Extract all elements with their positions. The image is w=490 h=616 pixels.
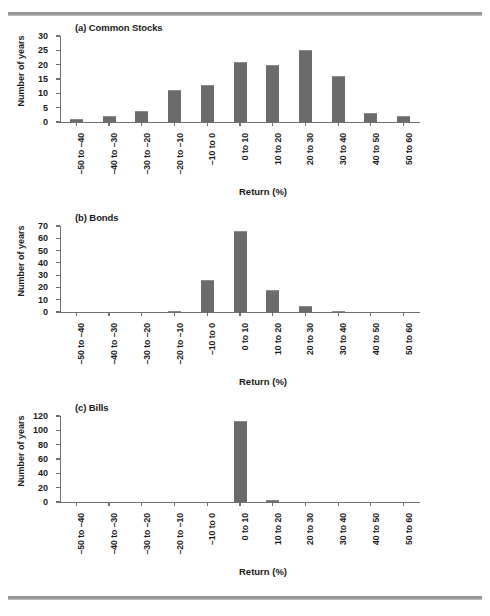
x-category-label: –20 to –10 [173,133,187,191]
panel-c-plot-area: 020406080100120 [60,416,420,502]
panel-bills: (c) Bills Number of years 02040608010012… [0,402,490,582]
x-category-label: 0 to 10 [238,133,252,191]
panel-b-y-tick [56,275,60,276]
panel-c-x-category-labels: –50 to –40–40 to –30–30 to –20–20 to –10… [60,506,420,564]
bottom-divider-rule [8,596,482,600]
panel-c-y-tick-label: 80 [38,440,48,449]
panel-a-y-tick [56,121,60,122]
panel-b-y-tick-label: 40 [38,258,48,267]
panel-a-y-tick [56,78,60,79]
panel-a-x-axis-title: Return (%) [0,186,490,197]
bar [266,290,279,312]
panel-b-y-tick-label: 0 [43,308,48,317]
panel-a-y-axis-line [60,36,61,122]
panel-c-y-tick [56,430,60,431]
bar [299,306,312,312]
x-category-label: 40 to 50 [369,133,383,191]
panel-c-y-tick-label: 120 [33,412,48,421]
panel-a-y-tick-label: 15 [38,75,48,84]
bar [234,231,247,312]
panel-b-title: (b) Bonds [75,212,118,223]
panel-b-y-tick-label: 20 [38,283,48,292]
panel-c-y-axis-line [60,416,61,502]
x-category-label: –30 to –20 [140,323,154,381]
x-category-label: –50 to –40 [74,323,88,381]
panel-b-y-tick-label: 10 [38,295,48,304]
bar [201,280,214,312]
x-category-label: 20 to 30 [303,323,317,381]
panel-b-y-tick [56,311,60,312]
bar [135,111,148,122]
bar [234,421,247,502]
x-category-label: 20 to 30 [303,513,317,571]
panel-b-y-tick-label: 70 [38,222,48,231]
x-category-label: –20 to –10 [173,513,187,571]
panel-a-title: (a) Common Stocks [75,22,163,33]
panel-b-y-tick-label: 60 [38,234,48,243]
panel-c-y-axis-label: Number of years [16,406,26,496]
panel-a-y-tick-label: 20 [38,60,48,69]
panel-a-y-tick [56,50,60,51]
x-category-label: 10 to 20 [271,133,285,191]
panel-a-x-category-labels: –50 to –40–40 to –30–30 to –20–20 to –10… [60,126,420,184]
x-category-label: 50 to 60 [402,133,416,191]
panel-b-y-tick [56,225,60,226]
x-category-label: –30 to –20 [140,513,154,571]
panel-a-y-tick-label: 10 [38,89,48,98]
panel-c-y-tick-label: 100 [33,426,48,435]
bar [397,116,410,122]
bar [168,90,181,122]
bar [332,76,345,122]
x-category-label: 50 to 60 [402,513,416,571]
panel-b-y-tick-label: 30 [38,271,48,280]
panel-a-plot-area: 051015202530 [60,36,420,122]
x-category-label: 30 to 40 [336,323,350,381]
bar [70,119,83,122]
panel-c-title: (c) Bills [75,402,108,413]
panel-c-y-tick [56,444,60,445]
bar [364,113,377,122]
x-category-label: 30 to 40 [336,133,350,191]
panel-b-y-axis-label: Number of years [16,216,26,306]
panel-b-y-tick [56,262,60,263]
panel-a-y-tick [56,64,60,65]
bar [266,65,279,122]
bar [266,500,279,502]
panel-c-y-tick [56,415,60,416]
panel-a-y-axis-label: Number of years [16,26,26,116]
x-category-label: 20 to 30 [303,133,317,191]
panel-b-plot-area: 010203040506070 [60,226,420,312]
x-category-label: 50 to 60 [402,323,416,381]
panel-b-y-tick [56,250,60,251]
x-category-label: –10 to 0 [205,133,219,191]
x-category-label: –40 to –30 [107,513,121,571]
panel-a-y-tick-label: 0 [43,118,48,127]
panel-b-y-tick [56,299,60,300]
x-category-label: 0 to 10 [238,513,252,571]
x-category-label: –40 to –30 [107,323,121,381]
panel-c-y-tick-label: 40 [38,469,48,478]
top-divider-rule [8,12,482,16]
panel-bonds: (b) Bonds Number of years 01020304050607… [0,212,490,392]
panel-a-y-tick-label: 30 [38,32,48,41]
bar [299,50,312,122]
panel-c-y-tick [56,458,60,459]
panel-a-y-tick [56,93,60,94]
x-category-label: –50 to –40 [74,513,88,571]
x-category-label: –40 to –30 [107,133,121,191]
panel-c-x-axis-title: Return (%) [0,566,490,577]
panel-a-y-tick [56,35,60,36]
x-category-label: 0 to 10 [238,323,252,381]
panel-a-y-tick [56,107,60,108]
panel-c-y-tick [56,501,60,502]
x-category-label: 10 to 20 [271,513,285,571]
panel-b-y-tick-label: 50 [38,246,48,255]
panel-a-y-tick-label: 25 [38,46,48,55]
panel-c-y-tick-label: 0 [43,498,48,507]
x-category-label: 10 to 20 [271,323,285,381]
panel-b-y-tick [56,238,60,239]
bar [234,62,247,122]
x-category-label: –10 to 0 [205,323,219,381]
panel-b-x-axis-title: Return (%) [0,376,490,387]
panel-common-stocks: (a) Common Stocks Number of years 051015… [0,22,490,202]
